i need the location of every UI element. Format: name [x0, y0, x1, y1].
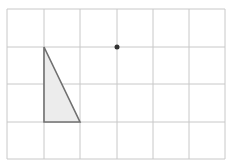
grid-diagram: [0, 0, 229, 167]
grid-lines: [7, 9, 225, 159]
point-marker: [115, 45, 120, 50]
